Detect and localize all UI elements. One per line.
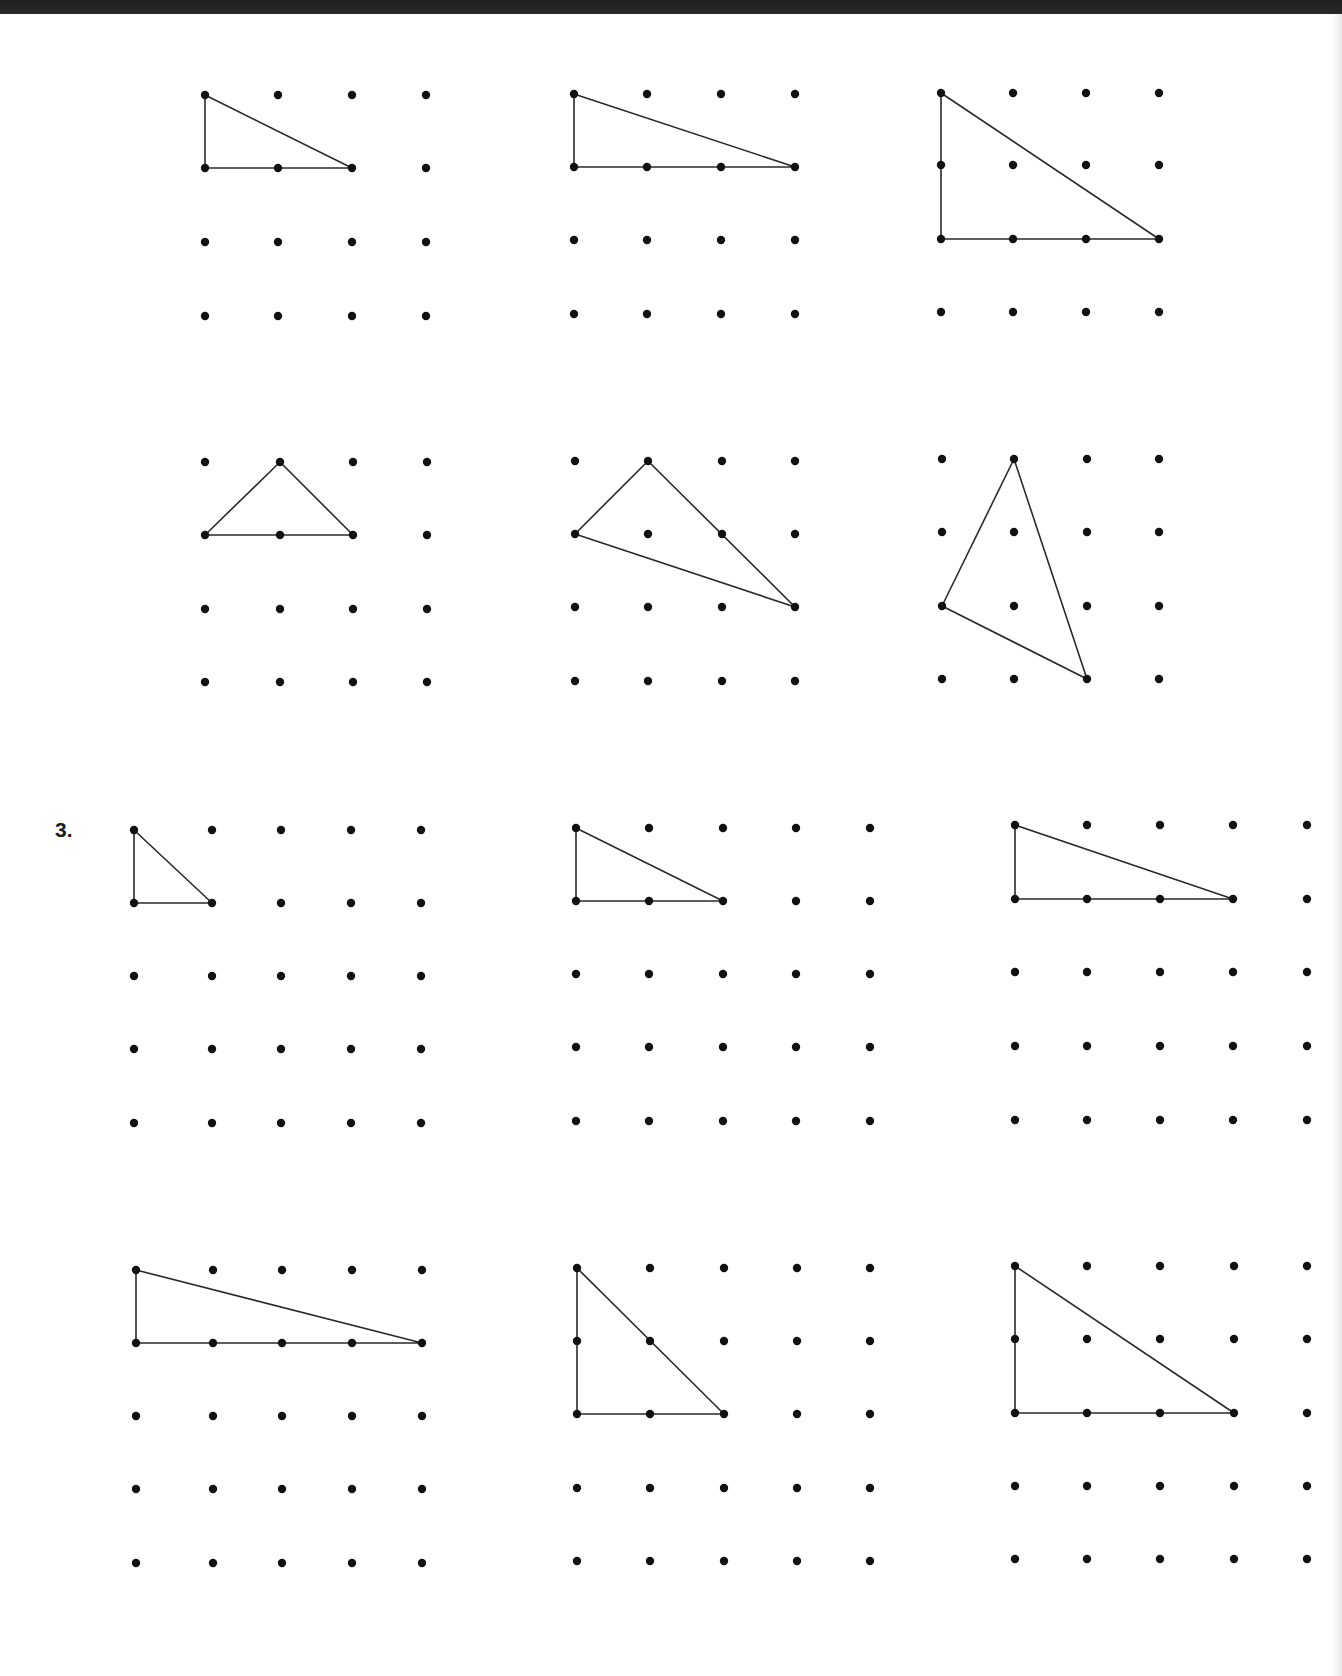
grid-dot xyxy=(1303,1262,1311,1270)
grid-dot xyxy=(1010,455,1018,463)
grid-dot xyxy=(645,1043,653,1051)
grid-dot xyxy=(1083,455,1091,463)
grid-dot xyxy=(130,899,138,907)
dot-grid-6 xyxy=(938,455,1163,683)
grid-dot xyxy=(276,678,284,686)
grid-dot xyxy=(1303,1555,1311,1563)
triangle-shape xyxy=(1015,825,1233,899)
grid-dot xyxy=(937,161,945,169)
grid-dot xyxy=(573,1264,581,1272)
grid-dot xyxy=(866,1117,874,1125)
triangle-shape xyxy=(205,95,352,168)
grid-dot xyxy=(1011,1335,1019,1343)
grid-dot xyxy=(1009,161,1017,169)
grid-dot xyxy=(1083,528,1091,536)
grid-dot xyxy=(1229,968,1237,976)
grid-dot xyxy=(277,1119,285,1127)
grid-dot xyxy=(277,972,285,980)
grid-dot xyxy=(423,605,431,613)
grid-dot xyxy=(208,1045,216,1053)
grid-dot xyxy=(417,1045,425,1053)
grid-dot xyxy=(1303,1116,1311,1124)
grid-dot xyxy=(717,310,725,318)
grid-dot xyxy=(209,1266,217,1274)
grid-dot xyxy=(793,1410,801,1418)
grid-dot xyxy=(422,164,430,172)
triangle-shape xyxy=(576,828,723,901)
grid-dot xyxy=(1155,161,1163,169)
grid-dot xyxy=(347,899,355,907)
grid-dot xyxy=(791,530,799,538)
grid-dot xyxy=(1229,821,1237,829)
grid-dot xyxy=(1083,968,1091,976)
grid-dot xyxy=(571,530,579,538)
grid-dot xyxy=(1156,1409,1164,1417)
grid-dot xyxy=(573,1484,581,1492)
grid-dot xyxy=(347,972,355,980)
grid-dot xyxy=(646,1557,654,1565)
triangle-shape xyxy=(136,1270,422,1343)
grid-dot xyxy=(418,1266,426,1274)
grid-dot xyxy=(278,1266,286,1274)
grid-dot xyxy=(130,1119,138,1127)
grid-dot xyxy=(1009,235,1017,243)
grid-dot xyxy=(422,312,430,320)
grid-dot xyxy=(1083,1482,1091,1490)
grid-dot xyxy=(646,1337,654,1345)
grid-dot xyxy=(644,457,652,465)
grid-dot xyxy=(1009,89,1017,97)
grid-dot xyxy=(348,312,356,320)
grid-dot xyxy=(937,89,945,97)
grid-dot xyxy=(1010,675,1018,683)
grid-dot xyxy=(1011,895,1019,903)
grid-dot xyxy=(348,164,356,172)
grid-dot xyxy=(792,970,800,978)
grid-dot xyxy=(571,457,579,465)
grid-dot xyxy=(130,1045,138,1053)
grid-dot xyxy=(276,605,284,613)
grid-dot xyxy=(1083,1262,1091,1270)
grid-dot xyxy=(572,970,580,978)
grid-dot xyxy=(277,899,285,907)
grid-dot xyxy=(1082,161,1090,169)
grid-dot xyxy=(791,90,799,98)
grid-dot xyxy=(209,1485,217,1493)
grid-dot xyxy=(277,1045,285,1053)
grid-dot xyxy=(1011,1116,1019,1124)
grid-dot xyxy=(278,1559,286,1567)
grid-dot xyxy=(791,310,799,318)
grid-dot xyxy=(646,1484,654,1492)
dot-grid-2 xyxy=(570,90,799,318)
grid-dot xyxy=(1303,968,1311,976)
grid-dot xyxy=(418,1485,426,1493)
triangle-shape xyxy=(575,461,795,607)
grid-dot xyxy=(1303,1335,1311,1343)
grid-dot xyxy=(418,1412,426,1420)
dot-grid-9 xyxy=(1011,821,1311,1124)
grid-dot xyxy=(719,897,727,905)
grid-dot xyxy=(1083,675,1091,683)
triangle-shape xyxy=(205,462,353,535)
grid-dot xyxy=(278,1339,286,1347)
grid-dot xyxy=(201,605,209,613)
grid-dot xyxy=(866,897,874,905)
grid-dot xyxy=(1011,1482,1019,1490)
grid-dot xyxy=(643,236,651,244)
grid-dot xyxy=(792,1043,800,1051)
grid-dot xyxy=(866,1410,874,1418)
grid-dot xyxy=(349,458,357,466)
grid-dot xyxy=(1155,89,1163,97)
grid-dot xyxy=(866,1557,874,1565)
grid-dot xyxy=(132,1266,140,1274)
grid-dot xyxy=(1303,821,1311,829)
grid-dot xyxy=(938,602,946,610)
grid-dot xyxy=(348,1485,356,1493)
grid-dot xyxy=(720,1410,728,1418)
grid-dot xyxy=(572,1117,580,1125)
grid-dot xyxy=(793,1557,801,1565)
grid-dot xyxy=(1083,821,1091,829)
grid-dot xyxy=(718,457,726,465)
grid-dot xyxy=(1303,1409,1311,1417)
grid-dot xyxy=(573,1337,581,1345)
grid-dot xyxy=(423,678,431,686)
